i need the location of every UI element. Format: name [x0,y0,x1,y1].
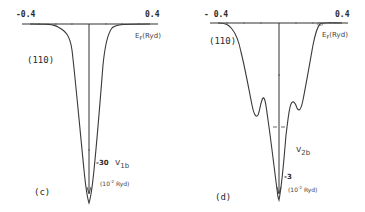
curve-v2b [218,23,342,200]
series-label: v2b [296,145,310,157]
panel-label: (d) [215,193,231,202]
x-axis-label: EF(Ryd) [322,32,348,40]
x-tick-max: 0.4 [145,11,159,19]
surface-label: (110) [209,37,236,46]
series-label: v1b [115,158,129,170]
x-axis-label: EF(Ryd) [135,33,161,41]
x-tick-min: -0.4 [16,11,35,19]
unit-suffix: Ryd) [302,186,317,193]
y-unit-label: (10-2 Ryd) [288,186,317,193]
x-axis-label-unit: (Ryd) [142,32,161,40]
panel-label: (c) [34,188,50,197]
y-min-label: -3 [284,174,292,181]
chart-panel-d: - 0.4 0.4 EF(Ryd) (110) v2b -3 (10-2 Ryd… [182,0,365,212]
curve-v1b [30,24,150,203]
unit-suffix: Ryd) [114,180,129,187]
unit-base: (10 [100,180,110,187]
y-unit-label: (10-2 Ryd) [100,180,129,187]
x-tick-min: - 0.4 [204,11,228,19]
series-subscript: 1b [120,162,129,170]
y-min-label: -30 [96,160,109,167]
x-tick-max: 0.4 [335,11,349,19]
x-axis-label-unit: (Ryd) [329,31,348,39]
unit-base: (10 [288,186,298,193]
chart-panel-c: -0.4 0.4 EF(Ryd) (110) -30 v1b (10-2 Ryd… [0,0,182,212]
series-subscript: 2b [301,149,310,157]
surface-label: (110) [27,56,54,65]
